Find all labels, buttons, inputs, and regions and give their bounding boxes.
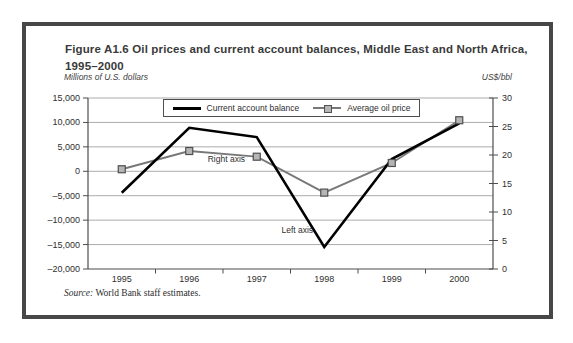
data-point-marker [456, 117, 463, 124]
left-tick-label: 15,000 [52, 93, 80, 103]
legend-label-current-account: Current account balance [207, 103, 300, 113]
left-axis-unit-label: Millions of U.S. dollars [64, 72, 148, 82]
source-note: Source: World Bank staff estimates. [64, 288, 201, 298]
chart-legend: Current account balance Average oil pric… [163, 99, 420, 117]
x-tick-label: 1998 [314, 274, 334, 284]
legend-label-oil-price: Average oil price [347, 103, 410, 113]
figure-title: Figure A1.6 Oil prices and current accou… [65, 41, 535, 75]
right-axis-unit-label: US$/bbl [482, 72, 512, 82]
source-text: World Bank staff estimates. [93, 288, 200, 298]
oil-price-marker-line-icon [313, 105, 341, 112]
annotation-right-axis: Right axis [208, 154, 245, 164]
left-tick-label: –10,000 [47, 215, 80, 225]
right-tick-label: 15 [502, 179, 512, 189]
right-tick-label: 5 [502, 236, 507, 246]
series-line-average-oil-price [122, 120, 460, 192]
left-tick-label: –5,000 [52, 191, 80, 201]
data-point-marker [118, 166, 125, 173]
left-tick-label: –15,000 [47, 240, 80, 250]
x-tick-label: 2000 [449, 274, 469, 284]
data-point-marker [253, 153, 260, 160]
left-tick-label: 0 [75, 166, 80, 176]
legend-item-current-account: Current account balance [173, 103, 300, 113]
annotation-left-axis: Left axis [281, 225, 313, 235]
x-tick-label: 1995 [112, 274, 132, 284]
right-tick-label: 20 [502, 150, 512, 160]
figure-page: 15,00010,0005,0000–5,000–10,000–15,000–2… [0, 0, 573, 343]
left-tick-label: 5,000 [57, 142, 80, 152]
x-tick-label: 1996 [179, 274, 199, 284]
data-point-marker [186, 148, 193, 155]
right-tick-label: 0 [502, 264, 507, 274]
left-tick-label: –20,000 [47, 264, 80, 274]
x-tick-label: 1997 [247, 274, 267, 284]
right-tick-label: 25 [502, 122, 512, 132]
current-account-line-icon [173, 107, 201, 110]
right-tick-label: 10 [502, 207, 512, 217]
left-tick-label: 10,000 [52, 117, 80, 127]
legend-item-oil-price: Average oil price [313, 103, 410, 113]
data-point-marker [388, 159, 395, 166]
x-tick-label: 1999 [382, 274, 402, 284]
source-prefix: Source: [64, 288, 93, 298]
right-tick-label: 30 [502, 93, 512, 103]
figure-title-line1: Figure A1.6 Oil prices and current accou… [65, 41, 535, 58]
data-point-marker [321, 189, 328, 196]
